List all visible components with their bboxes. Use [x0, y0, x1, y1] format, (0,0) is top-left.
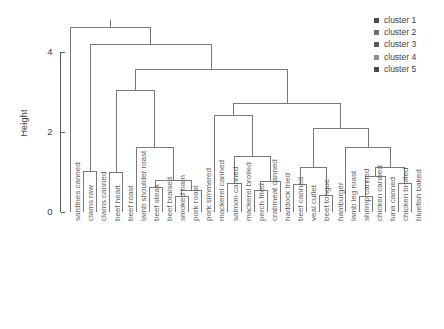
x-tick-label: chicken canned — [375, 165, 384, 221]
legend-swatch-icon — [374, 55, 379, 60]
x-tick-label: beef braised — [165, 177, 174, 221]
x-tick-label: mackerel broiled — [244, 162, 253, 221]
x-tick-label: beef roast — [126, 185, 135, 221]
legend-swatch-icon — [374, 30, 379, 35]
legend-swatch-icon — [374, 42, 379, 47]
x-tick-label: lamb leg roast — [349, 171, 358, 221]
legend-item-4[interactable]: cluster 4 — [374, 53, 416, 62]
x-tick-label: pork roast — [191, 185, 200, 221]
x-tick-label: beef tongue — [322, 179, 331, 221]
x-tick-label: perch fried — [257, 183, 266, 221]
legend-label: cluster 2 — [384, 28, 416, 37]
x-tick-label: shrimp canned — [362, 169, 371, 221]
y-tick-label: 2 — [35, 126, 53, 137]
legend-label: cluster 3 — [384, 40, 416, 49]
y-tick-label: 4 — [35, 46, 53, 57]
x-tick-label: haddock fried — [283, 173, 292, 221]
dendrogram-tree — [71, 20, 412, 212]
y-axis — [61, 52, 65, 213]
x-tick-label: clams raw — [86, 185, 95, 221]
legend-item-5[interactable]: cluster 5 — [374, 65, 416, 74]
x-tick-label: hamburger — [336, 182, 345, 221]
x-tick-label: veal cutlet — [309, 185, 318, 221]
y-tick-label: 0 — [35, 206, 53, 217]
x-tick-label: clams canned — [99, 172, 108, 221]
x-tick-label: sardines canned — [73, 162, 82, 221]
legend-label: cluster 4 — [384, 53, 416, 62]
legend-item-1[interactable]: cluster 1 — [374, 16, 416, 25]
x-tick-label: beef canned — [296, 177, 305, 221]
x-tick-label: bluefish baked — [414, 169, 423, 221]
dendrogram-merge — [136, 69, 287, 103]
legend-swatch-icon — [374, 18, 379, 23]
x-tick-label: crabmeat canned — [270, 159, 279, 221]
legend-item-3[interactable]: cluster 3 — [374, 40, 416, 49]
x-tick-label: lamb shoulder roast — [139, 151, 148, 221]
x-tick-label: beef steak — [152, 184, 161, 221]
x-tick-label: smoked ham — [178, 175, 187, 221]
legend-label: cluster 1 — [384, 16, 416, 25]
legend-label: cluster 5 — [384, 65, 416, 74]
x-tick-label: mackerel canned — [217, 160, 226, 221]
legend-swatch-icon — [374, 67, 379, 72]
x-tick-label: pork simmered — [204, 168, 213, 221]
cluster-legend: cluster 1cluster 2cluster 3cluster 4clus… — [374, 16, 416, 74]
legend-item-2[interactable]: cluster 2 — [374, 28, 416, 37]
x-tick-label: chicken broiled — [401, 168, 410, 221]
y-axis-title: Height — [19, 93, 29, 153]
dendrogram-merge — [90, 44, 211, 171]
x-tick-label: tuna canned — [388, 177, 397, 221]
x-tick-label: beef heart — [113, 185, 122, 221]
x-tick-label: salmon canned — [231, 167, 240, 221]
